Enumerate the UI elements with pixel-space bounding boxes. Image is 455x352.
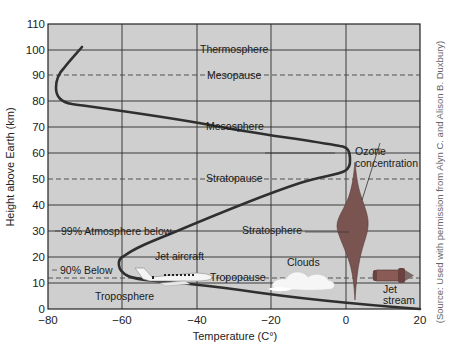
- svg-text:20: 20: [32, 251, 45, 263]
- svg-text:−80: −80: [38, 314, 58, 326]
- y-axis-title: Height above Earth (km): [4, 107, 16, 226]
- label-tropopause: Tropopause: [210, 271, 266, 283]
- label-thermosphere: Thermosphere: [200, 43, 268, 55]
- y-axis-ticks: 0 10 20 30 40 50 60 70 80 90 100 110: [26, 18, 45, 315]
- label-stratopause: Stratopause: [206, 172, 263, 184]
- svg-text:−60: −60: [112, 314, 132, 326]
- source-credit: (Source: Used with permission from Alyn …: [434, 41, 445, 323]
- svg-text:80: 80: [32, 95, 45, 107]
- svg-text:110: 110: [27, 18, 45, 30]
- svg-text:0: 0: [343, 314, 349, 326]
- svg-text:30: 30: [32, 225, 45, 237]
- label-ozone-line1: Ozone: [355, 145, 386, 157]
- svg-text:60: 60: [32, 147, 45, 159]
- label-90-below: 90% Below: [60, 264, 113, 276]
- label-stratosphere: Stratosphere: [242, 224, 302, 236]
- svg-text:10: 10: [32, 277, 45, 289]
- label-troposphere: Troposphere: [95, 290, 154, 302]
- label-99-atmosphere-below: 99% Atmosphere below: [61, 225, 172, 237]
- svg-text:90: 90: [32, 69, 45, 81]
- label-ozone-line2: concentration: [355, 157, 418, 169]
- label-mesosphere: Mesosphere: [206, 120, 264, 132]
- svg-text:−20: −20: [261, 314, 281, 326]
- x-axis-title: Temperature (C°): [193, 330, 277, 342]
- svg-text:70: 70: [32, 121, 45, 133]
- label-jet-stream-line2: stream: [383, 294, 415, 306]
- svg-text:40: 40: [32, 199, 45, 211]
- svg-text:100: 100: [26, 44, 45, 56]
- svg-text:−40: −40: [187, 314, 207, 326]
- label-mesopause: Mesopause: [207, 69, 261, 81]
- svg-text:20: 20: [414, 314, 427, 326]
- x-axis-ticks: −80 −60 −40 −20 0 20: [38, 314, 426, 326]
- atmosphere-temperature-diagram: Thermosphere Mesopause Mesosphere Ozone …: [0, 0, 455, 352]
- svg-text:50: 50: [32, 173, 45, 185]
- label-clouds: Clouds: [287, 256, 320, 268]
- label-jet-aircraft: Jet aircraft: [155, 250, 204, 262]
